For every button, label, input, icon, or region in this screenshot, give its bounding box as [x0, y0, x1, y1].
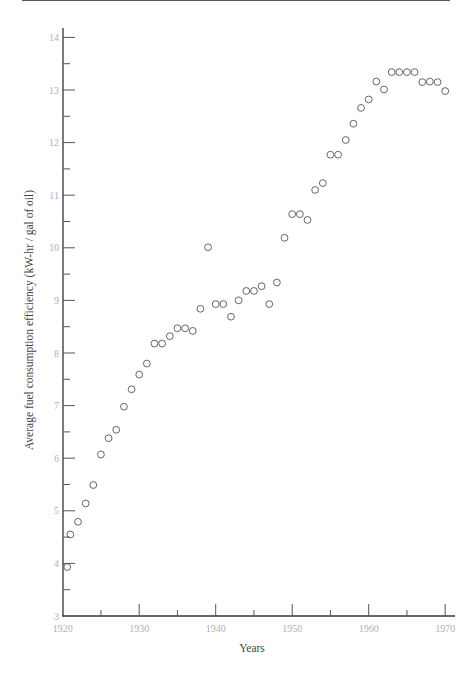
- x-tick-label: 1970: [435, 623, 455, 634]
- x-tick-label: 1960: [359, 623, 379, 634]
- y-tick-label: 14: [49, 32, 59, 43]
- x-axis-title: Years: [239, 642, 265, 654]
- x-tick-label: 1920: [53, 623, 73, 634]
- data-point: [90, 482, 97, 489]
- data-point: [281, 234, 288, 241]
- data-point: [434, 79, 441, 86]
- data-point: [442, 88, 449, 95]
- data-point: [327, 151, 334, 158]
- data-point: [105, 435, 112, 442]
- data-point: [197, 305, 204, 312]
- data-point: [143, 360, 150, 367]
- y-tick-label: 12: [49, 137, 59, 148]
- data-point: [388, 69, 395, 76]
- y-tick-label: 11: [49, 190, 59, 201]
- data-point: [350, 120, 357, 127]
- data-point: [151, 340, 158, 347]
- data-point: [358, 104, 365, 111]
- data-point: [113, 426, 120, 433]
- data-point: [228, 313, 235, 320]
- y-axis-title: Average fuel consumption efficiency (kW-…: [23, 190, 36, 450]
- data-point: [289, 211, 296, 218]
- data-point: [220, 301, 227, 308]
- data-point: [98, 451, 105, 458]
- data-point: [381, 86, 388, 93]
- data-point: [205, 244, 212, 251]
- data-point: [251, 288, 258, 295]
- data-point: [82, 500, 89, 507]
- data-point: [319, 180, 326, 187]
- data-point: [174, 325, 181, 332]
- data-point: [64, 564, 71, 571]
- x-tick-label: 1930: [129, 623, 149, 634]
- data-point: [243, 288, 250, 295]
- y-tick-label: 9: [54, 295, 59, 306]
- data-point: [67, 531, 74, 538]
- data-point: [396, 69, 403, 76]
- data-point: [342, 137, 349, 144]
- y-axis: 34567891011121314: [49, 28, 75, 622]
- data-point: [189, 328, 196, 335]
- data-point: [128, 386, 135, 393]
- data-point: [235, 297, 242, 304]
- x-tick-label: 1940: [206, 623, 226, 634]
- y-tick-label: 13: [49, 85, 59, 96]
- data-point: [159, 340, 166, 347]
- data-point: [335, 151, 342, 158]
- data-points: [64, 69, 449, 571]
- y-tick-label: 6: [54, 453, 59, 464]
- scatter-chart: 34567891011121314 1920193019401950196019…: [0, 0, 474, 680]
- y-tick-label: 7: [54, 400, 59, 411]
- data-point: [304, 217, 311, 224]
- data-point: [266, 301, 273, 308]
- data-point: [212, 301, 219, 308]
- data-point: [365, 96, 372, 103]
- data-point: [373, 78, 380, 85]
- y-tick-label: 4: [54, 558, 59, 569]
- data-point: [419, 79, 426, 86]
- y-tick-label: 3: [54, 611, 59, 622]
- y-tick-label: 10: [49, 242, 59, 253]
- data-point: [75, 518, 82, 525]
- y-tick-label: 8: [54, 348, 59, 359]
- data-point: [296, 211, 303, 218]
- x-tick-label: 1950: [282, 623, 302, 634]
- data-point: [274, 279, 281, 286]
- data-point: [312, 187, 319, 194]
- data-point: [411, 69, 418, 76]
- data-point: [258, 283, 265, 290]
- data-point: [136, 371, 143, 378]
- x-axis: 192019301940195019601970: [53, 604, 456, 634]
- data-point: [166, 333, 173, 340]
- data-point: [121, 403, 128, 410]
- data-point: [404, 69, 411, 76]
- data-point: [182, 325, 189, 332]
- data-point: [427, 78, 434, 85]
- y-tick-label: 5: [54, 505, 59, 516]
